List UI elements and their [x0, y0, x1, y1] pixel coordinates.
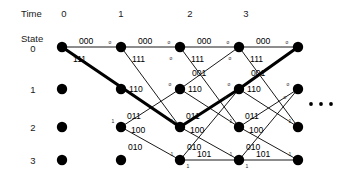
- node-t3-s3: [234, 155, 244, 165]
- time-axis-label: Time: [21, 8, 42, 19]
- label-000-t1: 000: [138, 36, 153, 46]
- label-010-t1: 010: [128, 142, 143, 152]
- label-110-t2: 110: [188, 84, 202, 94]
- label-000-t2: 000: [197, 36, 212, 46]
- bit-zero-mark-t3-s1b: o: [225, 94, 228, 100]
- bit-zero-mark-t2-s0: o: [227, 39, 230, 45]
- node-t1-s0: [116, 42, 126, 52]
- continuation-ellipsis: [309, 102, 333, 106]
- node-t2-s1: [175, 84, 185, 94]
- node-t4-s1: [293, 84, 303, 94]
- node-t3-s0: [234, 42, 244, 52]
- bit-zero-mark-t3-s1s0: o: [229, 55, 232, 61]
- label-100-t1: 100: [131, 125, 146, 135]
- bit-one-mark-t2-s3: 1: [171, 151, 174, 157]
- bit-zero-mark-t2-s1s0: o: [170, 55, 173, 61]
- bit-zero-mark-t4-s1: o: [287, 81, 290, 87]
- bit-zero-mark-t3-s0: o: [286, 39, 289, 45]
- label-011-t1: 011: [127, 111, 141, 121]
- bit-one-mark-t2-s2: 1: [171, 118, 174, 124]
- bit-one-mark-t3-s3: 1: [230, 151, 233, 157]
- state-tick-2: 2: [30, 122, 35, 133]
- trellis-nodes: [57, 42, 303, 165]
- state-tick-0: 0: [30, 43, 35, 54]
- bit-zero-mark-t0-s0: o: [109, 39, 112, 45]
- node-t4-s3: [293, 155, 303, 165]
- node-t2-s3: [175, 155, 185, 165]
- label-001-t2: 001: [192, 68, 207, 78]
- label-110-t1: 110: [129, 84, 143, 94]
- label-000-t0: 000: [79, 36, 94, 46]
- node-t1-s1: [116, 84, 126, 94]
- ellipsis-dot-3: [329, 102, 333, 106]
- label-100-t2: 100: [190, 125, 205, 135]
- bit-one-mark-t2-s3b: 1: [187, 163, 190, 169]
- node-t0-s2: [57, 122, 67, 132]
- label-111-t3: 111: [250, 54, 263, 64]
- bit-one-mark-t4-s2: 1: [289, 118, 292, 124]
- bit-zero-mark-t4-s1b: o: [284, 94, 287, 100]
- time-tick-3: 3: [243, 8, 248, 19]
- label-011-t2: 011: [186, 111, 200, 121]
- bit-one-mark-t1-s2: 1: [112, 118, 115, 124]
- label-110-t3: 110: [247, 84, 261, 94]
- time-tick-0: 0: [61, 8, 66, 19]
- node-t2-s0: [175, 42, 185, 52]
- label-101-t3: 101: [256, 149, 271, 159]
- bit-one-mark-t4-s3: 1: [289, 151, 292, 157]
- label-001-t3: 001: [251, 68, 266, 78]
- label-101-t2: 101: [197, 149, 212, 159]
- bit-zero-mark-t3-s1: o: [228, 81, 231, 87]
- time-tick-2: 2: [187, 8, 192, 19]
- ellipsis-dot-1: [309, 102, 313, 106]
- state-tick-1: 1: [30, 84, 35, 95]
- node-t0-s0: [57, 42, 67, 52]
- node-t4-s0: [293, 42, 303, 52]
- label-111-t2: 111: [191, 54, 204, 64]
- node-t0-s3: [57, 155, 67, 165]
- time-tick-1: 1: [118, 8, 123, 19]
- bit-one-mark-t3-s3b: 1: [246, 163, 249, 169]
- label-100-t3: 100: [249, 125, 264, 135]
- node-t3-s1: [234, 84, 244, 94]
- node-t3-s2: [234, 122, 244, 132]
- node-t2-s2: [175, 122, 185, 132]
- state-tick-3: 3: [30, 155, 35, 166]
- bit-one-mark-t3-s2: 1: [230, 118, 233, 124]
- label-000-t3: 000: [256, 36, 271, 46]
- label-111-t0: 111: [73, 54, 86, 64]
- node-t1-s2: [116, 122, 126, 132]
- bit-zero-mark-t1-s0: o: [168, 39, 171, 45]
- label-011-t3: 011: [245, 111, 259, 121]
- bit-zero-mark-t2-s1: o: [169, 81, 172, 87]
- node-t4-s2: [293, 122, 303, 132]
- node-t0-s1: [57, 84, 67, 94]
- trellis-diagram: Time State 0 1 2 3 0 1 2 3: [0, 0, 339, 176]
- ellipsis-dot-2: [319, 102, 323, 106]
- node-t1-s3: [116, 155, 126, 165]
- label-111-t1: 111: [132, 54, 145, 64]
